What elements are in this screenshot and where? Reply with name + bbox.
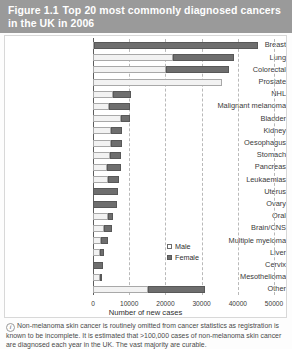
gridline-10000 [129, 39, 130, 295]
figure-footnote: iNon-melanoma skin cancer is routinely o… [6, 322, 286, 349]
bar-segment-male [93, 127, 111, 134]
x-tick-label: 20000 [156, 300, 174, 307]
x-axis-title: Number of new cases [5, 308, 286, 317]
gridline-30000 [202, 39, 203, 295]
chart-plot-frame: BreastLungColorectalProstateNHLMalignant… [4, 35, 287, 318]
footnote-text: Non-melanoma skin cancer is routinely om… [6, 322, 281, 347]
legend-label-female: Female [175, 252, 199, 263]
chart-legend: Male Female [167, 241, 199, 263]
bar-segment-female [104, 225, 112, 232]
bar-segment-male [93, 213, 108, 220]
bar-segment-female [110, 152, 121, 159]
bar-segment-female [111, 140, 121, 147]
bar-segment-female [166, 66, 229, 73]
bar-segment-female [107, 164, 121, 171]
bar-segment-female [108, 213, 113, 220]
bar-segment-female [93, 201, 117, 208]
gridline-50000 [274, 39, 275, 295]
bar-segment-male [93, 91, 113, 98]
bar-segment-female [100, 249, 105, 256]
bar-segment-female [109, 103, 130, 110]
bar-segment-female [108, 176, 118, 183]
bar-segment-female [113, 91, 131, 98]
x-tick-label: 0 [91, 300, 95, 307]
bar-segment-female [101, 237, 108, 244]
bar-segment-female [148, 286, 205, 293]
x-tick-label: 30000 [192, 300, 210, 307]
legend-swatch-female [167, 255, 172, 260]
info-icon: i [6, 323, 15, 332]
bar-segment-female [100, 274, 102, 281]
figure-number: Figure 1.1 [8, 4, 59, 16]
bar-segment-male [93, 152, 110, 159]
bar-segment-male [93, 225, 104, 232]
gridline-40000 [238, 39, 239, 295]
figure-header: Figure 1.1Top 20 most commonly diagnosed… [0, 0, 292, 33]
bar-segment-male [93, 237, 101, 244]
bar-segment-male [93, 176, 108, 183]
legend-item-female: Female [167, 252, 199, 263]
bar-segment-male [93, 115, 121, 122]
legend-item-male: Male [167, 241, 199, 252]
bar-segment-female [173, 54, 235, 61]
x-tick-label: 40000 [229, 300, 247, 307]
bar-segment-male [93, 103, 109, 110]
legend-swatch-male [167, 244, 172, 249]
bar-segment-female [121, 115, 130, 122]
bar-segment-male [93, 274, 100, 281]
bar-segment-male [93, 164, 107, 171]
bar-segment-male [93, 54, 173, 61]
bar-segment-male [93, 79, 222, 86]
x-tick-label: 50000 [265, 300, 283, 307]
bar-segment-male [93, 66, 166, 73]
bar-segment-female [111, 127, 121, 134]
figure-container: Figure 1.1Top 20 most commonly diagnosed… [0, 0, 292, 349]
chart-axis-area: 01000020000300004000050000 [93, 36, 286, 317]
legend-label-male: Male [175, 241, 191, 252]
x-tick-label: 10000 [120, 300, 138, 307]
bar-segment-female [94, 42, 258, 49]
bar-segment-male [93, 140, 111, 147]
bar-segment-female [93, 188, 118, 195]
bar-segment-male [93, 286, 148, 293]
bar-segment-female [93, 262, 103, 269]
